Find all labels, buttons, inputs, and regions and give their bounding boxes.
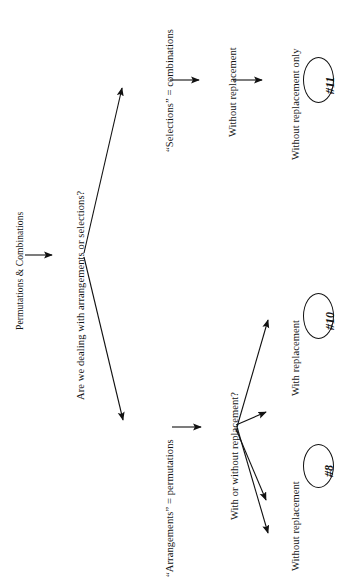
decision-with-or-without-replacement: With or without replacement?	[230, 392, 241, 520]
outcome-label-8: #8	[322, 465, 337, 477]
node-selections-without-replacement: Without replacement	[228, 47, 239, 137]
diagram-title: Permutations & Combinations	[16, 212, 26, 330]
outcome-label-11: #11	[323, 77, 338, 94]
outcome-label-10: #10	[323, 312, 338, 330]
node-selections-equals-combinations: “Selections” = combinations	[165, 29, 176, 152]
node-without-replacement-only: Without replacement only	[291, 48, 302, 160]
node-without-replacement: Without replacement	[291, 481, 302, 571]
arrow-decision2-up	[237, 320, 268, 427]
decision-arrangements-or-selections: Are we dealing with arrangements or sele…	[76, 191, 87, 400]
node-arrangements-equals-permutations: “Arrangements” = permutations	[165, 439, 176, 577]
arrow-decision2-down	[237, 427, 268, 533]
flowchart-canvas: Permutations & Combinations Are we deali…	[0, 0, 338, 577]
node-with-replacement: With replacement	[291, 320, 302, 396]
